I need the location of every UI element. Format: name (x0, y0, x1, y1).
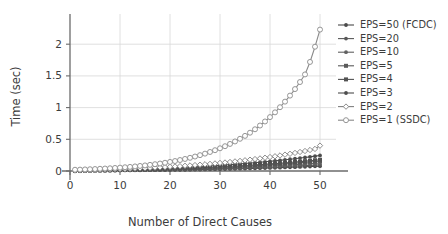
data-point-marker (168, 159, 173, 164)
chart-legend: EPS=50 (FCDC)EPS=20EPS=10EPS=5EPS=4EPS=3… (338, 19, 437, 125)
data-point-marker (178, 158, 183, 163)
data-point-marker (173, 159, 178, 164)
data-point-marker (344, 23, 348, 27)
data-point-marker (308, 159, 312, 163)
data-point-marker (288, 157, 292, 161)
data-point-marker (253, 127, 258, 132)
data-point-marker (318, 154, 322, 158)
y-axis-title: Time (sec) (9, 66, 23, 127)
data-point-marker (272, 154, 277, 159)
legend-label: EPS=2 (360, 101, 393, 112)
legend-label: EPS=5 (360, 60, 393, 71)
data-point-marker (223, 144, 228, 149)
data-point-marker (293, 87, 298, 92)
data-point-marker (198, 153, 203, 158)
legend-label: EPS=10 (360, 46, 399, 57)
data-point-marker (158, 161, 163, 166)
data-point-marker (163, 160, 168, 165)
data-point-marker (303, 159, 307, 163)
data-point-marker (313, 154, 317, 158)
data-point-marker (298, 156, 302, 160)
x-tick-label: 20 (163, 179, 176, 191)
data-point-marker (88, 167, 93, 172)
y-tick-label: 0 (55, 165, 62, 177)
x-tick-label: 10 (113, 179, 126, 191)
legend-item[interactable]: EPS=10 (338, 46, 399, 57)
data-point-marker (307, 147, 312, 152)
legend-item[interactable]: EPS=4 (338, 73, 393, 84)
data-point-marker (278, 105, 283, 110)
legend-label: EPS=20 (360, 33, 399, 44)
data-point-marker (262, 155, 267, 160)
data-point-marker (344, 37, 348, 41)
x-axis-title: Number of Direct Causes (128, 215, 272, 229)
data-point-marker (73, 167, 78, 172)
data-point-marker (108, 166, 113, 171)
x-tick-label: 0 (67, 179, 74, 191)
series-layer (72, 27, 322, 173)
y-tick-label: 1.5 (45, 69, 62, 81)
x-tick-label: 50 (313, 179, 326, 191)
data-point-marker (297, 149, 302, 154)
legend-label: EPS=1 (SSDC) (360, 114, 430, 125)
data-point-marker (344, 91, 348, 95)
legend-item[interactable]: EPS=3 (338, 87, 393, 98)
data-point-marker (93, 167, 98, 172)
data-point-marker (243, 133, 248, 138)
data-point-marker (203, 151, 208, 156)
legend-item[interactable]: EPS=2 (338, 101, 393, 112)
legend-item[interactable]: EPS=50 (FCDC) (338, 19, 437, 30)
data-point-marker (283, 158, 287, 162)
data-point-marker (227, 159, 232, 164)
data-point-marker (303, 156, 307, 160)
data-point-marker (252, 156, 257, 161)
data-point-marker (277, 153, 282, 158)
data-point-marker (344, 118, 349, 123)
data-point-marker (138, 163, 143, 168)
data-point-marker (98, 166, 103, 171)
data-point-marker (148, 162, 153, 167)
data-point-marker (83, 167, 88, 172)
data-point-marker (238, 136, 243, 141)
x-tick-label: 40 (263, 179, 276, 191)
y-tick-label: 1 (55, 101, 62, 113)
data-point-marker (208, 149, 213, 154)
legend-item[interactable]: EPS=1 (SSDC) (338, 114, 430, 125)
data-point-marker (273, 110, 278, 115)
data-point-marker (343, 104, 348, 109)
data-point-marker (228, 141, 233, 146)
data-point-marker (247, 157, 252, 162)
legend-label: EPS=50 (FCDC) (360, 19, 437, 30)
data-point-marker (298, 160, 302, 164)
data-point-marker (118, 165, 123, 170)
data-point-marker (344, 77, 348, 81)
data-point-marker (293, 157, 297, 161)
chart-figure: 00.511.5201020304050 Number of Direct Ca… (0, 0, 448, 234)
data-point-marker (248, 130, 253, 135)
data-point-marker (283, 99, 288, 104)
y-tick-label: 2 (55, 38, 62, 50)
data-point-marker (263, 119, 268, 124)
data-point-marker (128, 164, 133, 169)
data-point-marker (257, 156, 262, 161)
data-point-marker (318, 27, 323, 32)
data-point-marker (302, 148, 307, 153)
data-point-marker (133, 164, 138, 169)
data-point-marker (143, 163, 148, 168)
data-point-marker (183, 156, 188, 161)
legend-item[interactable]: EPS=5 (338, 60, 393, 71)
axis-labels: Number of Direct CausesTime (sec) (9, 66, 272, 229)
data-point-marker (303, 72, 308, 77)
data-point-marker (298, 80, 303, 85)
data-point-marker (292, 150, 297, 155)
data-point-marker (288, 93, 293, 98)
line-chart: 00.511.5201020304050 Number of Direct Ca… (0, 0, 448, 234)
data-point-marker (268, 115, 273, 120)
data-point-marker (242, 158, 247, 163)
legend-item[interactable]: EPS=20 (338, 33, 399, 44)
data-point-marker (78, 167, 83, 172)
gridlines (70, 14, 336, 171)
data-point-marker (232, 159, 237, 164)
data-point-marker (344, 50, 348, 54)
data-point-marker (308, 155, 312, 159)
